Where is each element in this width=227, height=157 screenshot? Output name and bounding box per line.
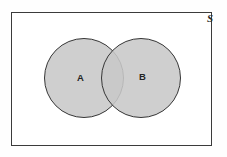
universal-set-label: S — [207, 13, 213, 24]
set-label-b: B — [139, 72, 146, 82]
set-label-a: A — [77, 73, 84, 83]
venn-diagram-figure: S A B — [0, 0, 227, 157]
